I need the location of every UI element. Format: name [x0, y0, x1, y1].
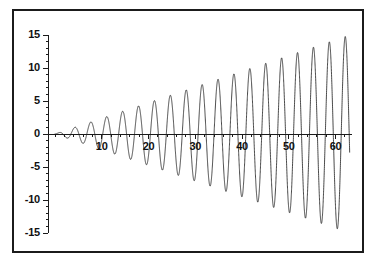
y-tick-label: 15 — [14, 28, 40, 40]
y-tick-label: -15 — [14, 226, 40, 238]
y-tick-label: -5 — [14, 160, 40, 172]
y-tick-label: -10 — [14, 193, 40, 205]
data-line-growing-oscillation — [55, 37, 350, 229]
x-tick-label: 30 — [183, 140, 207, 152]
x-tick-label: 40 — [230, 140, 254, 152]
x-tick-label: 60 — [324, 140, 348, 152]
y-tick-label: 0 — [14, 127, 40, 139]
x-tick-label: 20 — [137, 140, 161, 152]
x-tick-label: 50 — [277, 140, 301, 152]
axes — [48, 35, 352, 233]
y-tick-label: 10 — [14, 61, 40, 73]
figure: 151050-5-10-15102030405060 — [0, 0, 379, 273]
x-tick-label: 10 — [90, 140, 114, 152]
y-tick-marks — [43, 35, 48, 233]
y-tick-label: 5 — [14, 94, 40, 106]
plot-area — [0, 0, 379, 273]
